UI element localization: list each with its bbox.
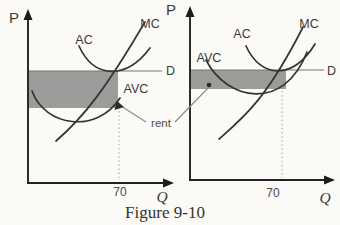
rent-dot-icon (207, 83, 212, 88)
left-rent-shaded-area (28, 71, 118, 108)
rent-leader-right (175, 87, 209, 122)
left-quantity-axis-arrow-icon (163, 179, 174, 188)
left-graph: P Q AC MC AVC D 70 (9, 9, 175, 205)
rent-label: rent (151, 117, 172, 129)
right-demand-label: D (327, 64, 336, 78)
left-price-axis-arrow-icon (24, 9, 33, 20)
left-demand-label: D (166, 64, 175, 78)
figure-caption: Figure 9-10 (125, 203, 205, 222)
right-graph: P Q AC MC AVC D 70 (166, 1, 336, 206)
rent-leader-left (121, 106, 146, 122)
left-average-cost-curve (79, 46, 150, 71)
right-ac-label: AC (233, 27, 250, 41)
right-quantity-tick: 70 (266, 186, 280, 200)
left-avc-label: AVC (124, 82, 149, 96)
right-quantity-axis-label: Q (319, 189, 330, 206)
economics-figure: P Q AC MC AVC D 70 P (0, 0, 340, 225)
right-mc-label: MC (299, 17, 318, 31)
left-quantity-tick: 70 (113, 185, 127, 199)
figure-canvas: P Q AC MC AVC D 70 P (0, 0, 340, 225)
right-rent-shaded-area (190, 70, 286, 89)
left-ac-label: AC (75, 33, 92, 47)
right-price-axis-label: P (166, 1, 176, 18)
right-price-axis-arrow-icon (186, 6, 195, 17)
right-avc-label: AVC (197, 51, 222, 65)
right-quantity-axis-arrow-icon (324, 176, 335, 185)
left-price-axis-label: P (9, 9, 19, 26)
left-mc-label: MC (140, 17, 159, 31)
